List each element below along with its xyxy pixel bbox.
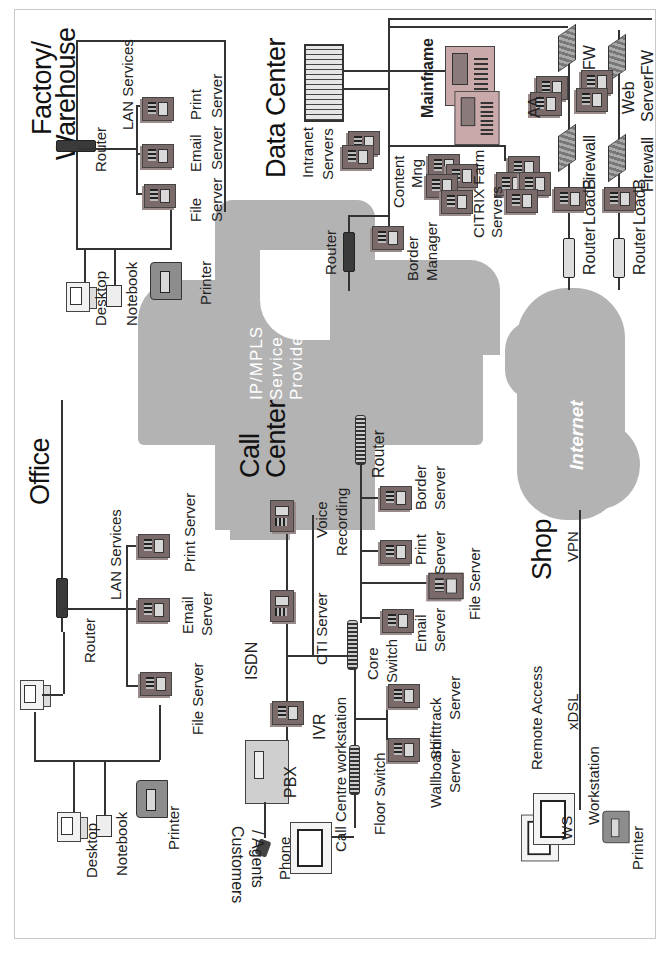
floor-switch-icon [349,745,360,795]
content-label-2: Mng [409,159,425,188]
loadb-b-label: LoadB [632,179,649,225]
factory-print-label: Print [188,89,204,120]
office-lan-label: LAN Services [108,509,124,600]
center-title: Center [262,400,290,478]
cti-server-icon [270,590,294,622]
recording-label: Recording [334,488,350,556]
link [388,26,556,28]
shifttrack-server-icon [388,684,420,708]
cc-workstation-label: Call Centre workstation [333,697,349,852]
office-email-label: Email [180,596,196,634]
content-label: Content [391,155,407,208]
cc-email-server-icon [382,609,414,633]
link [342,88,388,90]
router-b-icon [613,238,625,278]
office-notebook-label: Notebook [114,812,130,876]
shop-title: Shop [528,519,556,580]
office-router-label: Router [82,618,98,663]
cc-print-label-2: Server [432,531,448,575]
office-email-label-2: Server [199,592,215,636]
ivr-label: IVR [312,713,329,740]
xdsl-label: xDSL [565,693,581,730]
citrix-server-icon-4 [441,190,473,214]
link [63,632,65,694]
factory-file-server-icon [144,184,176,208]
link [388,145,504,147]
cc-print-server-icon [380,540,412,564]
pbx-label: PBX [283,766,300,798]
cc-file-label: File Server [467,547,483,620]
office-email-server-icon [138,598,170,622]
core-switch-icon [347,620,358,670]
office-router-pc-icon [20,680,44,710]
fw-label: FW [582,45,599,70]
intranet-server-icon-2 [342,145,374,169]
citrix-server-icon-8 [506,189,538,213]
cc-border-server-icon [380,486,412,510]
factory-printer-icon [150,262,182,300]
dc-router-label: Router [323,230,339,275]
factory-file-label: File [188,198,204,222]
provider-label: Provider [288,329,306,400]
link [312,515,314,655]
factory-lan-link [78,148,136,150]
office-lan-bus [126,545,128,685]
router-a-icon [563,238,575,278]
wallboard-label: Wallboard [428,741,444,808]
cc-workstation-icon [290,822,332,874]
office-file-label: File Server [190,662,206,735]
factory-print-server-icon [142,97,174,121]
office-desktop-icon [57,812,81,842]
cc-router-label: Router [371,430,388,478]
voice-recording-icon [270,500,294,532]
office-title: Office [26,438,54,505]
link [42,694,63,696]
link [63,608,126,610]
border-manager-icon [372,226,404,250]
cc-print-label: Print [413,534,429,565]
office-desktop-label: Desktop [84,823,100,878]
agents-label: / Agents [248,830,265,888]
office-print-label: Print Server [182,493,198,572]
aa-label: AA [527,97,544,118]
factory-client-bus [76,248,171,250]
cc-file-server-icon [428,573,463,599]
service-label: Service [268,336,286,400]
wallboard-server-icon [388,738,420,762]
cc-border-label: Border [413,465,429,510]
border-label: Border [405,236,421,281]
link [34,712,36,760]
intranet-label: Intranet [300,127,316,178]
citrix-label: CITRIX Farm [471,150,487,238]
border-label-2: Manager [424,222,440,281]
factory-lan-label: LAN Services [120,39,136,130]
web-server-fw-label: ServerFW [640,50,657,122]
factory-printer-label: Printer [198,261,214,305]
cc-router-icon [355,415,366,465]
link [170,210,172,250]
link [159,705,161,760]
factory-file-label-2: Server [209,178,225,222]
cc-email-label-2: Server [432,608,448,652]
voice-label: Voice [314,501,330,538]
customers-label: Customers [228,826,245,903]
intranet-rack-icon [304,44,344,122]
link [126,685,138,687]
link [114,248,116,286]
loadb-a-label: LoadB [582,179,599,225]
factory-email-label: Email [188,134,204,172]
dc-router-icon [343,232,355,272]
cc-core-bus [360,463,362,623]
link [605,18,618,20]
shop-printer-icon [602,811,629,843]
shop-workstation-label: Workstation [586,746,602,825]
factory-email-server-icon [142,144,174,168]
ip-mpls-label: IP/MPLS [248,326,266,400]
shop-link [579,510,581,810]
factory-email-label-2: Server [209,126,225,170]
cti-label: CTI Server [314,592,330,665]
factory-print-label-2: Server [209,74,225,118]
factory-desktop-label: Desktop [93,271,109,326]
web-label: Web [621,81,638,114]
link [360,582,438,584]
